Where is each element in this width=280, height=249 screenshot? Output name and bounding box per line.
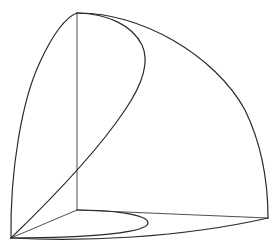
base-ellipse-arc (11, 210, 148, 238)
right-meridian-arc (77, 13, 268, 218)
left-meridian-arc (11, 13, 77, 238)
base-edge-left (11, 210, 77, 238)
sphere-octant-diagram (0, 0, 280, 249)
viviani-curve (11, 13, 145, 238)
diagram-canvas (0, 0, 280, 249)
